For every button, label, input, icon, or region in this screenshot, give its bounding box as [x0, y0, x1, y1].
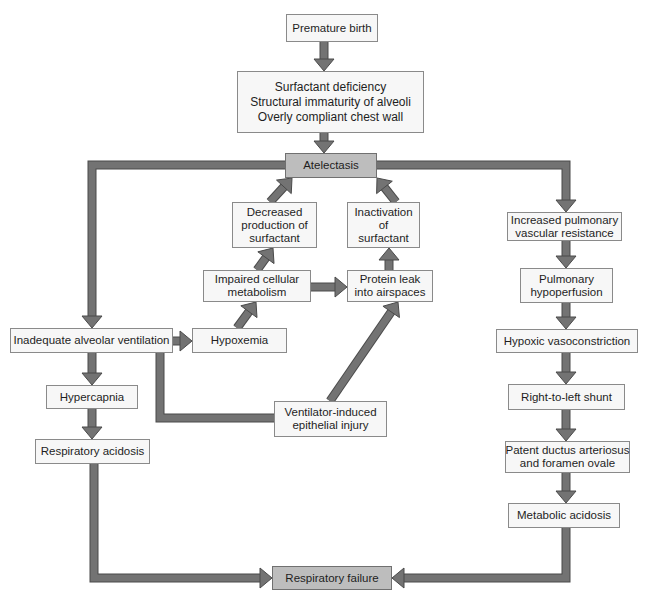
node-label: Overly compliant chest wall [258, 110, 403, 125]
node-label: Protein leak [360, 273, 421, 286]
arrow-inadequate-to-ventilator [160, 353, 274, 418]
node-label: and foramen ovale [520, 457, 615, 470]
node-atelectasis: Atelectasis [285, 153, 377, 178]
arrow-shaft-outline [160, 353, 274, 418]
node-label: Premature birth [292, 22, 371, 35]
arrow-pulmhypo-to-hypoxic [556, 303, 576, 329]
arrow-head-icon [314, 59, 334, 71]
node-label: Metabolic acidosis [517, 509, 611, 522]
arrow-head-icon [556, 491, 576, 503]
arrow-shaft-outline [377, 165, 566, 201]
node-surfactant-deficiency: Surfactant deficiency Structural immatur… [237, 71, 424, 133]
arrow-shaft [403, 528, 566, 578]
arrow-shaft [330, 311, 392, 401]
node-hypoxemia: Hypoxemia [192, 328, 287, 353]
node-label: surfactant [249, 232, 300, 245]
node-ventilator-induced-injury: Ventilator-induced epithelial injury [274, 401, 387, 437]
arrow-head-icon [180, 331, 192, 351]
node-label: hypoperfusion [530, 286, 602, 299]
arrow-hypoxic-to-rtl [556, 353, 576, 384]
node-patent-ductus-arteriosus: Patent ductus arteriosus and foramen ova… [505, 441, 630, 473]
node-label: vascular resistance [515, 227, 613, 240]
arrow-hypoxemia-to-impaired [237, 302, 257, 328]
node-label: surfactant [358, 232, 409, 245]
arrow-shaft [94, 464, 261, 578]
node-label: Decreased [247, 206, 303, 219]
arrow-head-icon [556, 372, 576, 384]
node-premature-birth: Premature birth [286, 14, 378, 42]
arrow-inadequate-to-hypercapnia [82, 353, 102, 385]
arrow-ventilator-to-protein [330, 302, 399, 401]
node-label: Patent ductus arteriosus [506, 444, 630, 457]
arrow-decreased-to-atelectasis [270, 178, 292, 202]
node-label: Inadequate alveolar ventilation [13, 334, 169, 347]
node-metabolic-acidosis: Metabolic acidosis [508, 503, 620, 528]
flowchart-canvas: Premature birth Surfactant deficiency St… [0, 0, 647, 596]
arrow-impaired-to-decreased [257, 248, 274, 270]
node-label: Inactivation [354, 206, 412, 219]
node-label: Hypercapnia [60, 391, 125, 404]
node-inadequate-alveolar-ventilation: Inadequate alveolar ventilation [10, 328, 173, 353]
node-hypoxic-vasoconstriction: Hypoxic vasoconstriction [496, 329, 638, 353]
node-increased-pulmonary-resistance: Increased pulmonary vascular resistance [507, 212, 622, 241]
arrow-head-icon [82, 427, 102, 439]
arrow-increased-to-pulmhypo [556, 241, 576, 268]
node-label: production of [241, 219, 308, 232]
node-label: Hypoxic vasoconstriction [504, 335, 631, 348]
node-label: Atelectasis [303, 159, 359, 172]
arrow-metabolic-to-respfailure [392, 528, 566, 588]
node-label: Impaired cellular [215, 273, 299, 286]
node-inactivation-of-surfactant: Inactivation of surfactant [347, 202, 420, 248]
node-respiratory-failure: Respiratory failure [272, 566, 392, 590]
arrow-head-icon [335, 277, 347, 297]
arrow-shaft [160, 353, 274, 418]
node-protein-leak: Protein leak into airspaces [347, 270, 433, 302]
arrow-shaft [377, 165, 566, 201]
node-label: epithelial injury [292, 419, 368, 432]
arrow-impaired-to-protein [311, 277, 347, 297]
node-impaired-cellular-metabolism: Impaired cellular metabolism [203, 270, 311, 302]
arrow-head-icon [392, 568, 404, 588]
arrow-rtl-to-patent [556, 410, 576, 441]
node-label: Right-to-left shunt [521, 391, 612, 404]
arrow-patent-to-metabolic [556, 473, 576, 503]
node-label: metabolism [228, 286, 287, 299]
arrow-shaft [384, 187, 396, 202]
node-label: into airspaces [355, 286, 426, 299]
node-hypercapnia: Hypercapnia [46, 385, 138, 409]
arrow-head-icon [556, 317, 576, 329]
node-pulmonary-hypoperfusion: Pulmonary hypoperfusion [520, 268, 613, 303]
arrow-inadequate-to-hypoxemia [173, 331, 192, 351]
node-label: Respiratory acidosis [41, 445, 145, 458]
arrow-premature-to-surfactant [314, 42, 334, 71]
node-label: Increased pulmonary [511, 214, 618, 227]
arrow-inactivation-to-atelectasis [377, 178, 396, 202]
arrow-head-icon [314, 141, 334, 153]
arrow-head-icon [82, 373, 102, 385]
arrow-shaft-outline [94, 464, 261, 578]
node-decreased-surfactant-production: Decreased production of surfactant [232, 202, 317, 248]
arrow-respacidosis-to-respfailure [94, 464, 272, 588]
node-label: Ventilator-induced [284, 406, 376, 419]
arrow-surfactant-to-atelectasis [314, 133, 334, 153]
node-respiratory-acidosis: Respiratory acidosis [35, 439, 150, 464]
node-label: of [379, 219, 389, 232]
node-label: Surfactant deficiency [275, 80, 386, 95]
arrow-shaft [257, 257, 267, 270]
arrow-protein-to-inactivation [379, 248, 399, 270]
node-label: Hypoxemia [211, 334, 269, 347]
arrow-head-icon [556, 200, 576, 212]
node-right-to-left-shunt: Right-to-left shunt [508, 384, 625, 410]
node-label: Respiratory failure [285, 572, 378, 585]
node-label: Pulmonary [539, 273, 594, 286]
arrow-head-icon [556, 429, 576, 441]
arrow-head-icon [82, 316, 102, 328]
arrow-head-icon [556, 256, 576, 268]
arrow-head-icon [379, 248, 399, 260]
arrow-hypercapnia-to-respacidosis [82, 409, 102, 439]
arrow-head-icon [260, 568, 272, 588]
arrow-shaft-outline [403, 528, 566, 578]
node-label: Structural immaturity of alveoli [250, 95, 411, 110]
